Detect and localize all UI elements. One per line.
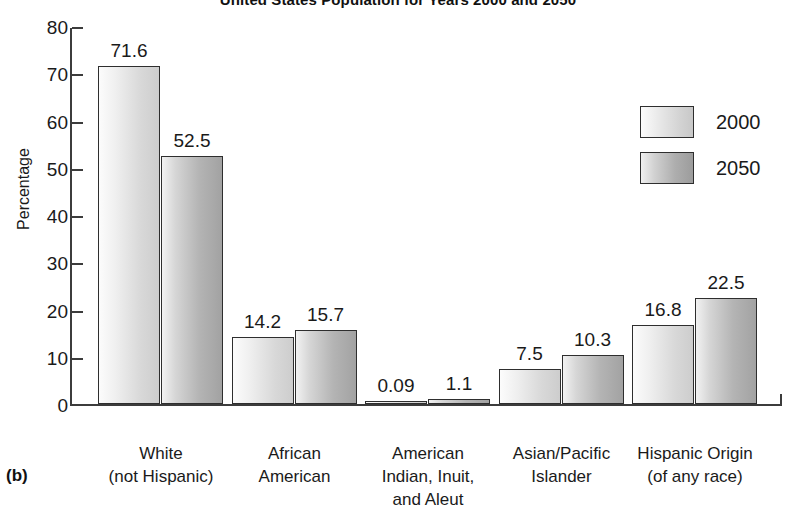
bar-value-label: 0.09 (378, 376, 415, 395)
legend-label-2050: 2050 (716, 157, 761, 180)
panel-label: (b) (6, 466, 28, 486)
bar-value-label: 16.8 (645, 300, 682, 319)
category-label-line: Hispanic Origin (600, 442, 790, 465)
bar-2000-0[interactable]: 71.6 (98, 66, 160, 404)
y-axis-tick (72, 74, 83, 76)
bar-2050-4[interactable]: 22.5 (695, 298, 757, 404)
legend-item-2000[interactable]: 2000 (640, 104, 786, 140)
bar-2050-0[interactable]: 52.5 (161, 156, 223, 404)
chart-legend: 20002050 (640, 104, 786, 196)
x-axis-end-tick (780, 394, 782, 406)
bar-group: 7.510.3 (499, 26, 625, 404)
plot-area: 01020304050607080 71.652.514.215.70.091.… (70, 28, 782, 406)
bar-value-label: 10.3 (574, 330, 611, 349)
y-axis-tick-label: 80 (8, 18, 68, 37)
bar-value-label: 52.5 (174, 131, 211, 150)
bar-value-label: 22.5 (708, 273, 745, 292)
bar-value-label: 71.6 (111, 41, 148, 60)
y-axis-tick (72, 358, 83, 360)
y-axis-tick-label: 70 (8, 65, 68, 84)
bar-value-label: 14.2 (244, 312, 281, 331)
y-axis-tick-label: 40 (8, 207, 68, 226)
bar-group: 16.822.5 (632, 26, 758, 404)
y-axis-tick-label: 0 (8, 396, 68, 415)
chart-title: United States Population for Years 2000 … (0, 0, 796, 8)
y-axis-tick (72, 169, 83, 171)
bar-2000-2[interactable]: 0.09 (365, 401, 427, 404)
y-axis-tick-label: 20 (8, 302, 68, 321)
y-axis-tick-label: 50 (8, 160, 68, 179)
y-axis-title: Percentage (15, 119, 33, 259)
bar-2050-3[interactable]: 10.3 (562, 355, 624, 404)
bar-value-label: 15.7 (307, 305, 344, 324)
bar-2000-1[interactable]: 14.2 (232, 337, 294, 404)
category-label-line: and Aleut (333, 488, 523, 509)
bar-2000-3[interactable]: 7.5 (499, 369, 561, 404)
y-axis-tick (72, 263, 83, 265)
y-axis-tick (72, 27, 83, 29)
y-axis-tick (72, 122, 83, 124)
y-axis-tick-label: 10 (8, 349, 68, 368)
y-axis-tick-label: 60 (8, 113, 68, 132)
y-axis-tick (72, 216, 83, 218)
bar-2050-2[interactable]: 1.1 (428, 399, 490, 404)
y-axis-tick-label: 30 (8, 254, 68, 273)
legend-swatch-2050 (640, 152, 694, 184)
bar-value-label: 1.1 (446, 374, 472, 393)
legend-item-2050[interactable]: 2050 (640, 150, 786, 186)
bar-value-label: 7.5 (516, 344, 542, 363)
y-axis-tick (72, 311, 83, 313)
legend-swatch-2000 (640, 106, 694, 138)
bar-2050-1[interactable]: 15.7 (295, 330, 357, 404)
bar-2000-4[interactable]: 16.8 (632, 325, 694, 404)
bar-group: 0.091.1 (365, 26, 491, 404)
x-axis-line (70, 404, 782, 406)
bar-group: 71.652.5 (98, 26, 224, 404)
bar-group: 14.215.7 (232, 26, 358, 404)
legend-label-2000: 2000 (716, 111, 761, 134)
x-axis-category-label: Hispanic Origin(of any race) (600, 442, 790, 488)
category-label-line: (of any race) (600, 465, 790, 488)
